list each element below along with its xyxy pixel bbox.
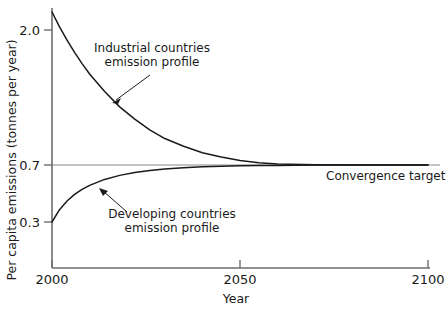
x-tick-label-2000: 2000: [35, 272, 68, 287]
chart-figure: 2.0 0.7 0.3 2000 2050 2100 Year Per capi…: [0, 0, 447, 316]
y-tick-label-2.0: 2.0: [19, 23, 40, 38]
x-tick-label-2100: 2100: [411, 272, 444, 287]
y-tick-label-0.3: 0.3: [19, 215, 40, 230]
convergence-target-label: Convergence target: [326, 169, 446, 183]
developing-annotation-line1: Developing countries: [108, 207, 236, 221]
industrial-annotation-line2: emission profile: [105, 55, 200, 69]
developing-annotation-line2: emission profile: [125, 221, 220, 235]
industrial-annotation-line1: Industrial countries: [94, 41, 210, 55]
y-tick-label-0.7: 0.7: [19, 158, 40, 173]
x-tick-label-2050: 2050: [223, 272, 256, 287]
x-axis-title: Year: [222, 291, 250, 306]
emissions-convergence-chart: 2.0 0.7 0.3 2000 2050 2100 Year Per capi…: [0, 0, 447, 316]
y-axis-title: Per capita emissions (tonnes per year): [4, 39, 19, 280]
